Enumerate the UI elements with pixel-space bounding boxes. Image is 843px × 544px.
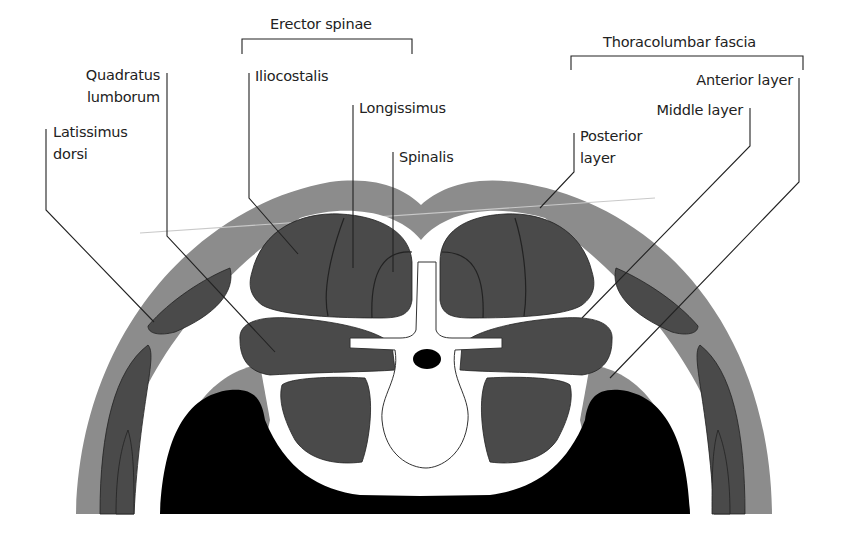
spinal-canal: [413, 349, 441, 369]
label-posterior-layer-2: layer: [580, 149, 615, 168]
label-erector-spinae: Erector spinae: [270, 15, 372, 34]
label-anterior-layer: Anterior layer: [660, 71, 793, 90]
label-quadratus-lumborum-2: lumborum: [72, 88, 160, 107]
label-middle-layer: Middle layer: [630, 101, 743, 120]
label-latissimus-dorsi-2: dorsi: [53, 145, 88, 164]
label-posterior-layer-1: Posterior: [580, 127, 642, 146]
label-thoracolumbar-fascia: Thoracolumbar fascia: [603, 33, 756, 52]
label-longissimus: Longissimus: [359, 99, 446, 118]
label-latissimus-dorsi-1: Latissimus: [53, 123, 128, 142]
label-quadratus-lumborum-1: Quadratus: [72, 66, 160, 85]
label-iliocostalis: Iliocostalis: [255, 67, 328, 86]
label-spinalis: Spinalis: [399, 148, 454, 167]
